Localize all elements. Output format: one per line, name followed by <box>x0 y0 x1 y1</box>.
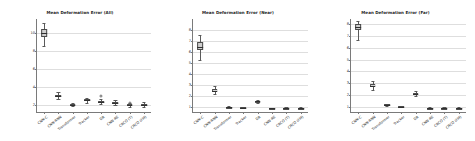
y-tick-label: 7 <box>347 34 349 38</box>
outlier-point <box>100 94 103 97</box>
y-tick-mark <box>349 60 351 61</box>
whisker-cap-lower <box>43 46 46 47</box>
whisker-cap-lower <box>128 107 131 108</box>
gridline <box>351 71 466 72</box>
x-tick-label: Tracker <box>393 115 406 126</box>
y-tick-label: 3 <box>189 83 191 87</box>
median-line <box>226 107 232 108</box>
x-tick-mark <box>258 112 259 114</box>
x-tick-mark <box>144 112 145 114</box>
median-line <box>127 105 133 106</box>
y-tick-mark <box>349 107 351 108</box>
y-tick-mark <box>349 48 351 49</box>
y-tick-label: 4 <box>33 85 35 89</box>
panel-title: Mean Deformation Error (Far) <box>316 10 475 15</box>
y-tick-label: 1 <box>189 105 191 109</box>
median-line <box>442 108 448 109</box>
whisker-cap-lower <box>371 90 374 91</box>
y-tick-label: 6 <box>33 67 35 71</box>
x-tick-mark <box>115 112 116 114</box>
x-tick-mark <box>387 112 388 114</box>
median-line <box>240 108 246 109</box>
y-tick-mark <box>349 95 351 96</box>
y-tick-mark <box>349 24 351 25</box>
median-line <box>98 102 104 103</box>
x-tick-mark <box>301 112 302 114</box>
whisker-cap-lower <box>114 105 117 106</box>
y-tick-mark <box>35 33 37 34</box>
plot-area: 246810CNN-CCNN-RNNTransformerTrackerDRCN… <box>36 19 151 113</box>
gridline <box>351 24 466 25</box>
whisker-cap-upper <box>371 81 374 82</box>
chart-panel-all: Mean Deformation Error (All) 246810CNN-C… <box>0 0 160 141</box>
whisker-cap-lower <box>213 94 216 95</box>
x-tick-mark <box>272 112 273 114</box>
y-tick-label: 6 <box>189 50 191 54</box>
x-tick-mark <box>73 112 74 114</box>
median-line <box>355 27 361 28</box>
x-tick-label: DR <box>413 115 420 121</box>
gridline <box>193 52 308 53</box>
median-line <box>298 108 304 109</box>
y-tick-mark <box>191 96 193 97</box>
y-tick-label: 4 <box>189 72 191 76</box>
median-line <box>141 105 147 106</box>
y-tick-mark <box>191 74 193 75</box>
whisker-cap-lower <box>85 103 88 104</box>
gridline <box>193 74 308 75</box>
gridline <box>351 83 466 84</box>
y-tick-mark <box>35 105 37 106</box>
plot-area: 12345678CNN-CCNN-RNNTransformerTrackerDR… <box>192 19 308 113</box>
median-line <box>70 105 76 106</box>
x-tick-mark <box>200 112 201 114</box>
x-tick-mark <box>130 112 131 114</box>
median-line <box>284 108 290 109</box>
whisker-cap-upper <box>357 21 360 22</box>
figure-canvas: Mean Deformation Error (All) 246810CNN-C… <box>0 0 475 141</box>
whisker-cap-lower <box>71 106 74 107</box>
x-tick-label: Tracker <box>78 115 91 126</box>
median-line <box>84 100 90 101</box>
gridline <box>351 36 466 37</box>
x-tick-mark <box>58 112 59 114</box>
y-tick-mark <box>191 30 193 31</box>
x-tick-label: DR <box>99 115 106 121</box>
whisker-cap-upper <box>100 99 103 100</box>
x-tick-mark <box>401 112 402 114</box>
gridline <box>193 85 308 86</box>
gridline <box>37 105 151 106</box>
x-tick-mark <box>229 112 230 114</box>
chart-panel-far: Mean Deformation Error (Far) 12345678CNN… <box>316 0 475 141</box>
gridline <box>351 60 466 61</box>
gridline <box>193 107 308 108</box>
y-tick-mark <box>191 41 193 42</box>
x-tick-mark <box>215 112 216 114</box>
x-tick-label: CNN-C <box>193 115 205 125</box>
gridline <box>37 51 151 52</box>
x-tick-mark <box>430 112 431 114</box>
gridline <box>193 30 308 31</box>
y-tick-label: 8 <box>347 22 349 26</box>
x-tick-mark <box>444 112 445 114</box>
y-tick-mark <box>35 51 37 52</box>
gridline <box>193 63 308 64</box>
y-tick-mark <box>35 87 37 88</box>
chart-panel-near: Mean Deformation Error (Near) 12345678CN… <box>158 0 318 141</box>
y-tick-label: 7 <box>189 39 191 43</box>
whisker-cap-upper <box>43 23 46 24</box>
gridline <box>193 96 308 97</box>
whisker-cap-upper <box>57 92 60 93</box>
y-tick-mark <box>349 83 351 84</box>
x-tick-label: CNN-C <box>37 115 49 125</box>
y-tick-mark <box>191 85 193 86</box>
x-tick-mark <box>373 112 374 114</box>
x-tick-label: CNN-C <box>351 115 363 125</box>
median-line <box>456 108 462 109</box>
median-line <box>41 33 47 34</box>
median-line <box>212 91 218 92</box>
x-tick-mark <box>416 112 417 114</box>
x-tick-mark <box>286 112 287 114</box>
y-tick-mark <box>35 69 37 70</box>
y-tick-label: 4 <box>347 69 349 73</box>
median-line <box>398 107 404 108</box>
